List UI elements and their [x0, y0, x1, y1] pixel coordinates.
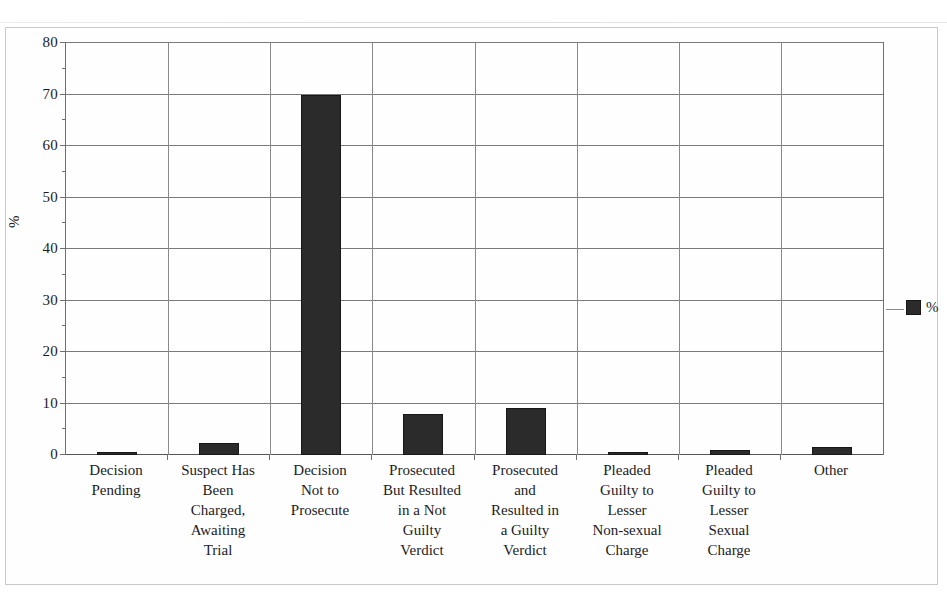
plot-area: 01020304050607080 — [65, 42, 884, 455]
y-axis-label: 20 — [18, 344, 58, 359]
x-axis-label-line: Guilty to — [678, 480, 780, 500]
bar — [608, 452, 648, 455]
x-axis-label-line: Trial — [167, 540, 269, 560]
y-axis-label: 70 — [18, 87, 58, 102]
x-axis-label-line: Verdict — [371, 540, 473, 560]
category-separator — [781, 43, 782, 455]
x-axis-label-line: Guilty to — [576, 480, 678, 500]
y-tick-30 — [60, 300, 66, 301]
y-tick-80 — [60, 42, 66, 43]
x-axis-label-line: Pleaded — [576, 460, 678, 480]
bar — [301, 95, 341, 456]
y-axis-label: 40 — [18, 241, 58, 256]
bar — [812, 447, 852, 455]
x-axis-label-line: a Guilty — [474, 520, 576, 540]
x-axis-label-line: But Resulted — [371, 480, 473, 500]
y-axis-label: 10 — [18, 396, 58, 411]
y-axis-label: 60 — [18, 138, 58, 153]
x-axis-label-line: Been — [167, 480, 269, 500]
bar — [199, 443, 239, 455]
bar-chart: % 01020304050607080 DecisionPendingSuspe… — [0, 0, 947, 600]
bar — [97, 452, 137, 455]
x-axis-label-line: Guilty — [371, 520, 473, 540]
x-axis-label-line: and — [474, 480, 576, 500]
x-axis-label-line: Prosecuted — [371, 460, 473, 480]
x-axis-label-line: Sexual — [678, 520, 780, 540]
legend-swatch-percent — [906, 300, 921, 315]
x-axis-label-line: Prosecuted — [474, 460, 576, 480]
x-axis-label-line: Verdict — [474, 540, 576, 560]
y-tick-40 — [60, 248, 66, 249]
x-axis-label: ProsecutedBut Resultedin a NotGuiltyVerd… — [371, 460, 473, 560]
y-axis-label: 0 — [18, 447, 58, 462]
y-tick-20 — [60, 351, 66, 352]
y-axis-label: 50 — [18, 190, 58, 205]
y-tick-10 — [60, 403, 66, 404]
x-axis-label-line: Resulted in — [474, 500, 576, 520]
category-separator — [372, 43, 373, 455]
y-minor-tick-25 — [62, 325, 66, 326]
bar — [403, 414, 443, 455]
x-axis-label: PleadedGuilty toLesserNon-sexualCharge — [576, 460, 678, 560]
x-axis-label-line: in a Not — [371, 500, 473, 520]
bar — [710, 450, 750, 455]
y-axis-label: 30 — [18, 293, 58, 308]
x-axis-label-line: Pending — [65, 480, 167, 500]
bar — [506, 408, 546, 455]
y-minor-tick-15 — [62, 377, 66, 378]
x-axis-label-line: Awaiting — [167, 520, 269, 540]
category-separator — [475, 43, 476, 455]
y-minor-tick-55 — [62, 171, 66, 172]
y-minor-tick-75 — [62, 68, 66, 69]
x-axis-label-line: Other — [780, 460, 882, 480]
y-tick-50 — [60, 197, 66, 198]
y-axis-label: 80 — [18, 35, 58, 50]
category-separator — [270, 43, 271, 455]
x-axis-label-line: Pleaded — [678, 460, 780, 480]
y-tick-60 — [60, 145, 66, 146]
x-axis-label: DecisionPending — [65, 460, 167, 500]
legend-label-percent: % — [926, 299, 939, 316]
chart-legend: % — [906, 299, 939, 316]
x-axis-label-line: Decision — [269, 460, 371, 480]
y-minor-tick-35 — [62, 274, 66, 275]
y-tick-70 — [60, 94, 66, 95]
x-axis-label: PleadedGuilty toLesserSexualCharge — [678, 460, 780, 560]
x-axis-label: Other — [780, 460, 882, 480]
x-axis-label-line: Decision — [65, 460, 167, 480]
category-separator — [679, 43, 680, 455]
y-minor-tick-65 — [62, 119, 66, 120]
category-separator — [168, 43, 169, 455]
x-axis-label: DecisionNot toProsecute — [269, 460, 371, 520]
legend-connector — [886, 309, 904, 310]
x-axis-label-line: Prosecute — [269, 500, 371, 520]
x-axis-labels: DecisionPendingSuspect HasBeenCharged,Aw… — [65, 460, 882, 585]
x-axis-label-line: Charged, — [167, 500, 269, 520]
y-axis-title: % — [6, 216, 23, 229]
x-axis-label-line: Lesser — [678, 500, 780, 520]
x-axis-label-line: Not to — [269, 480, 371, 500]
category-separator — [577, 43, 578, 455]
x-axis-label-line: Lesser — [576, 500, 678, 520]
x-axis-label-line: Charge — [678, 540, 780, 560]
x-axis-label-line: Non-sexual — [576, 520, 678, 540]
x-axis-label-line: Suspect Has — [167, 460, 269, 480]
x-axis-label-line: Charge — [576, 540, 678, 560]
x-axis-label: Suspect HasBeenCharged,AwaitingTrial — [167, 460, 269, 560]
y-minor-tick-5 — [62, 428, 66, 429]
y-tick-0 — [60, 454, 66, 455]
x-axis-label: ProsecutedandResulted ina GuiltyVerdict — [474, 460, 576, 560]
y-minor-tick-45 — [62, 222, 66, 223]
